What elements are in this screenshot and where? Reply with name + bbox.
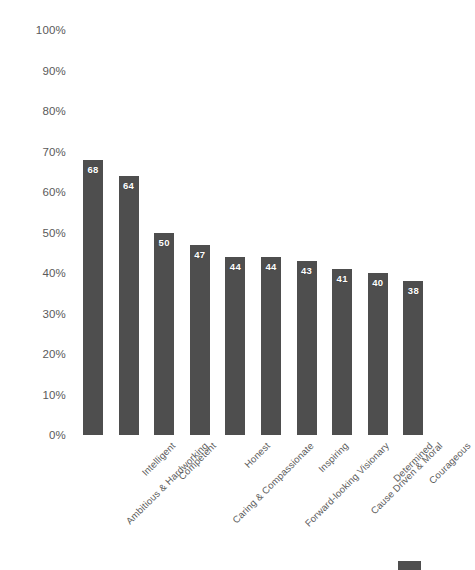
bar-value-label: 68 xyxy=(83,164,103,175)
bar[interactable]: 38 xyxy=(403,281,423,435)
bar-column[interactable]: 44 xyxy=(225,257,245,435)
bar[interactable]: 44 xyxy=(225,257,245,435)
bar-value-label: 50 xyxy=(154,237,174,248)
bar[interactable]: 40 xyxy=(368,273,388,435)
bar-column[interactable]: 41 xyxy=(332,269,352,435)
bar-column[interactable]: 64 xyxy=(119,176,139,435)
bar-column[interactable]: 47 xyxy=(190,245,210,435)
legend-swatch-icon xyxy=(398,561,421,570)
y-axis-tick-label: 10% xyxy=(2,389,66,401)
y-axis-tick-label: 60% xyxy=(2,186,66,198)
bar-value-label: 44 xyxy=(225,261,245,272)
y-axis-tick-label: 70% xyxy=(2,146,66,158)
bar[interactable]: 64 xyxy=(119,176,139,435)
bar-column[interactable]: 43 xyxy=(297,261,317,435)
bar[interactable]: 43 xyxy=(297,261,317,435)
bar[interactable]: 50 xyxy=(154,233,174,436)
bar[interactable]: 68 xyxy=(83,160,103,435)
bar-column[interactable]: 44 xyxy=(261,257,281,435)
bar[interactable]: 41 xyxy=(332,269,352,435)
bar-value-label: 64 xyxy=(119,180,139,191)
bar-value-label: 40 xyxy=(368,277,388,288)
chart-legend xyxy=(398,561,426,570)
bar-value-label: 44 xyxy=(261,261,281,272)
y-axis-tick-label: 50% xyxy=(2,227,66,239)
bar[interactable]: 47 xyxy=(190,245,210,435)
bar-column[interactable]: 38 xyxy=(403,281,423,435)
bar-column[interactable]: 40 xyxy=(368,273,388,435)
bar-value-label: 43 xyxy=(297,265,317,276)
y-axis-tick-label: 100% xyxy=(2,24,66,36)
y-axis-tick-label: 0% xyxy=(2,429,66,441)
bar[interactable]: 44 xyxy=(261,257,281,435)
y-axis: 100%90%80%70%60%50%40%30%20%10%0% xyxy=(0,0,72,569)
y-axis-tick-label: 40% xyxy=(2,267,66,279)
bar-value-label: 47 xyxy=(190,249,210,260)
bar-value-label: 41 xyxy=(332,273,352,284)
bar-column[interactable]: 68 xyxy=(83,160,103,435)
y-axis-tick-label: 30% xyxy=(2,308,66,320)
y-axis-tick-label: 20% xyxy=(2,348,66,360)
bar-value-label: 38 xyxy=(403,285,423,296)
y-axis-tick-label: 90% xyxy=(2,65,66,77)
y-axis-tick-label: 80% xyxy=(2,105,66,117)
bar-column[interactable]: 50 xyxy=(154,233,174,436)
